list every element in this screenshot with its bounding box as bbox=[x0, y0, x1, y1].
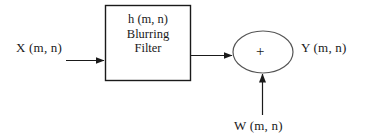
filter-block-line-2: Blurring bbox=[105, 27, 191, 42]
filter-block-label: h (m, n) Blurring Filter bbox=[105, 12, 191, 56]
output-signal-label: Y (m, n) bbox=[301, 41, 347, 54]
filter-block-line-1: h (m, n) bbox=[105, 12, 191, 27]
filter-block-line-3: Filter bbox=[105, 41, 191, 56]
noise-signal-label: W (m, n) bbox=[234, 119, 283, 132]
block-diagram: X (m, n) h (m, n) Blurring Filter + Y (m… bbox=[0, 0, 371, 139]
input-signal-label: X (m, n) bbox=[16, 41, 62, 54]
summing-junction-plus-sign: + bbox=[256, 44, 265, 59]
